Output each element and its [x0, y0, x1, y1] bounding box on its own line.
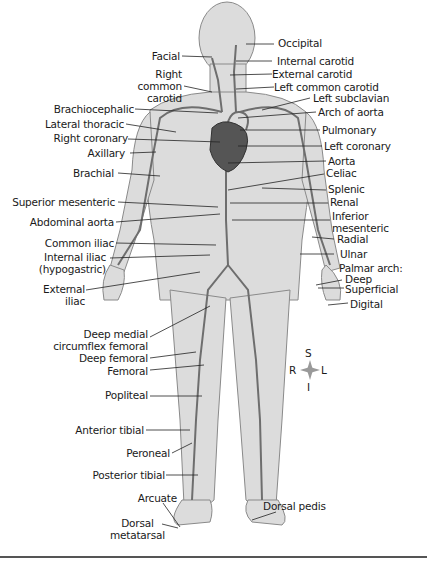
label-brachiocephalic: Brachiocephalic	[54, 103, 134, 115]
label-abdominal-aorta: Abdominal aorta	[30, 216, 114, 228]
label-arch-of-aorta: Arch of aorta	[318, 106, 384, 118]
label-aorta: Aorta	[328, 155, 355, 167]
label-right-coronary: Right coronary	[53, 132, 128, 144]
label-ulnar: Ulnar	[340, 248, 367, 260]
label-anterior-tibial: Anterior tibial	[75, 424, 144, 436]
right-hand	[103, 265, 125, 300]
compass-right: R	[289, 364, 296, 376]
label-external-iliac: External iliac	[43, 283, 85, 307]
artery-diagram: Facial Right common carotid Brachiocepha…	[0, 0, 427, 562]
label-radial: Radial	[337, 233, 368, 245]
label-celiac: Celiac	[326, 167, 357, 179]
label-dorsal-metatarsal: Dorsal metatarsal	[110, 517, 165, 541]
bottom-rule	[0, 556, 427, 558]
label-internal-iliac: Internal iliac (hypogastric)	[39, 251, 106, 275]
label-left-coronary: Left coronary	[324, 140, 391, 152]
label-deep-medial-circumflex-femoral: Deep medial circumflex femoral	[53, 328, 148, 352]
label-peroneal: Peroneal	[126, 447, 170, 459]
label-inferior-mesenteric: Inferior mesenteric	[332, 210, 389, 234]
label-splenic: Splenic	[328, 183, 365, 195]
label-deep-femoral: Deep femoral	[79, 352, 148, 364]
label-popliteal: Popliteal	[105, 389, 148, 401]
compass-rose-icon	[300, 360, 320, 380]
label-arcuate: Arcuate	[138, 492, 177, 504]
label-dorsal-pedis: Dorsal pedis	[263, 500, 326, 512]
label-digital: Digital	[350, 298, 383, 310]
label-occipital: Occipital	[278, 37, 322, 49]
label-renal: Renal	[330, 196, 358, 208]
label-axillary: Axillary	[87, 147, 125, 159]
compass-inferior: I	[307, 381, 310, 393]
label-superficial: Superficial	[345, 283, 398, 295]
left-leg	[230, 290, 290, 505]
label-external-carotid: External carotid	[272, 68, 352, 80]
compass-superior: S	[305, 347, 311, 359]
label-facial: Facial	[152, 50, 180, 62]
label-common-iliac: Common iliac	[45, 237, 114, 249]
head	[199, 2, 255, 74]
label-femoral: Femoral	[107, 365, 148, 377]
label-superior-mesenteric: Superior mesenteric	[12, 196, 115, 208]
label-lateral-thoracic: Lateral thoracic	[45, 118, 124, 130]
label-brachial: Brachial	[73, 167, 114, 179]
label-pulmonary: Pulmonary	[322, 124, 376, 136]
label-left-subclavian: Left subclavian	[313, 92, 389, 104]
label-right-common-carotid: Right common carotid	[137, 68, 182, 104]
label-posterior-tibial: Posterior tibial	[92, 469, 165, 481]
compass-left: L	[321, 364, 327, 376]
label-internal-carotid: Internal carotid	[277, 55, 354, 67]
right-foot	[174, 500, 212, 525]
